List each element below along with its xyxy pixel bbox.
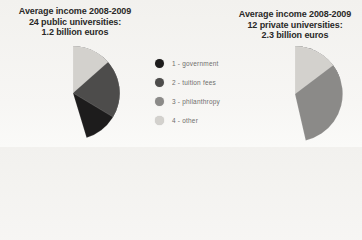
public-pie-title-line2: 24 public universities: xyxy=(8,17,142,28)
legend-dot-philanthropy xyxy=(155,97,164,106)
legend: 1 - government 2 - tuition fees 3 - phil… xyxy=(155,59,235,125)
legend-dot-tuition-fees xyxy=(155,78,164,87)
public-pie-title: Average income 2008-2009 24 public unive… xyxy=(8,6,142,38)
legend-item-philanthropy: 3 - philanthropy xyxy=(155,97,235,106)
legend-dot-other xyxy=(155,116,164,125)
private-pie-title-line2: 12 private universities: xyxy=(228,20,362,31)
income-comparison-figure: Average income 2008-2009 24 public unive… xyxy=(0,0,361,147)
legend-label-government: 1 - government xyxy=(172,60,219,67)
private-universities-pie-chart xyxy=(247,46,343,142)
legend-label-philanthropy: 3 - philanthropy xyxy=(172,98,220,105)
public-universities-pie-chart xyxy=(26,46,120,140)
legend-item-government: 1 - government xyxy=(155,59,235,68)
legend-item-other: 4 - other xyxy=(155,116,235,125)
private-pie-title: Average income 2008-2009 12 private univ… xyxy=(228,9,362,41)
public-pie-title-line3: 1.2 billion euros xyxy=(8,27,142,38)
legend-label-tuition-fees: 2 - tuition fees xyxy=(172,79,216,86)
legend-item-tuition-fees: 2 - tuition fees xyxy=(155,78,235,87)
private-pie-title-line3: 2.3 billion euros xyxy=(228,30,362,41)
public-pie-title-line1: Average income 2008-2009 xyxy=(8,6,142,17)
legend-label-other: 4 - other xyxy=(172,117,198,124)
legend-dot-government xyxy=(155,59,164,68)
private-pie-title-line1: Average income 2008-2009 xyxy=(228,9,362,20)
